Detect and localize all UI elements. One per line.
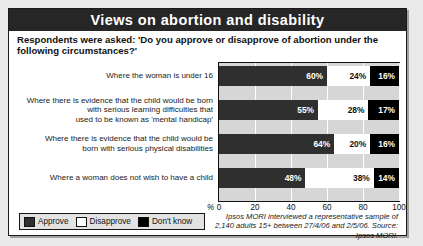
bar-segment-dontknow: 16% [370, 66, 399, 86]
bar-row: 60%24%16% [219, 66, 399, 86]
bar-segment-dontknow: 17% [368, 100, 399, 120]
screenshot-root: Views on abortion and disability Respond… [0, 0, 423, 246]
chart-legend: ApproveDisapproveDon't know [19, 213, 205, 230]
legend-item: Disapprove [76, 217, 131, 227]
stacked-bar: 60%24%16% [219, 66, 399, 86]
legend-label: Don't know [152, 217, 192, 226]
disapprove-swatch [76, 217, 87, 227]
x-axis-unit: % [207, 203, 214, 212]
category-label-line: used to be known as 'mental handicap' [17, 115, 213, 125]
stacked-bar: 55%28%17% [219, 100, 399, 120]
gridline [399, 63, 400, 201]
x-axis-tick: 60 [322, 203, 331, 212]
bar-row: 64%20%16% [219, 134, 399, 154]
bar-segment-dontknow: 16% [370, 134, 399, 154]
stacked-bar: 48%38%14% [219, 168, 399, 188]
bar-segment-approve: 64% [219, 134, 334, 154]
bar-row: 48%38%14% [219, 168, 399, 188]
bar-segment-disapprove: 20% [334, 134, 370, 154]
bar-segment-approve: 55% [219, 100, 318, 120]
legend-label: Approve [38, 217, 69, 226]
source-note: Ipsos MORI interviewed a representative … [210, 212, 398, 240]
legend-label: Disapprove [90, 217, 131, 226]
category-label: Where a woman does not wish to have a ch… [17, 173, 213, 183]
bar-segment-approve: 60% [219, 66, 327, 86]
approve-swatch [24, 217, 35, 227]
chart-subtitle: Respondents were asked: 'Do you approve … [17, 34, 399, 57]
category-label: Where there is evidence that the child w… [17, 96, 213, 125]
category-label: Where the woman is under 16 [17, 71, 213, 81]
category-label: Where there is evidence that the child w… [17, 134, 213, 153]
bar-segment-disapprove: 28% [318, 100, 368, 120]
bar-row: 55%28%17% [219, 100, 399, 120]
x-axis-tick: 80 [358, 203, 367, 212]
chart-title-bar: Views on abortion and disability [9, 9, 406, 31]
legend-item: Don't know [138, 217, 192, 227]
bar-segment-disapprove: 24% [327, 66, 370, 86]
page-title: Views on abortion and disability [9, 9, 406, 31]
x-axis-tick: 0 [217, 203, 222, 212]
bar-segment-approve: 48% [219, 168, 305, 188]
category-label-line: Where the woman is under 16 [17, 71, 213, 81]
bar-segment-disapprove: 38% [305, 168, 373, 188]
chart-area: Where the woman is under 16Where there i… [17, 62, 400, 212]
bar-segment-dontknow: 14% [374, 168, 399, 188]
category-label-line: Where there is evidence that the child w… [17, 96, 213, 106]
legend-item: Approve [24, 217, 69, 227]
x-axis-tick: 40 [286, 203, 295, 212]
category-label-line: Where a woman does not wish to have a ch… [17, 173, 213, 183]
stacked-bar: 64%20%16% [219, 134, 399, 154]
category-label-line: Where there is evidence that the child w… [17, 134, 213, 144]
category-label-line: born with serious physical disabilities [17, 144, 213, 154]
plot-area: 60%24%16%55%28%17%64%20%16%48%38%14% [218, 62, 400, 202]
dontknow-swatch [138, 217, 149, 227]
x-axis-tick: 100 [392, 203, 406, 212]
category-label-column: Where the woman is under 16Where there i… [17, 62, 213, 202]
chart-panel: Views on abortion and disability Respond… [8, 8, 407, 236]
x-axis-tick: 20 [250, 203, 259, 212]
category-label-line: with serious learning difficulties that [17, 105, 213, 115]
